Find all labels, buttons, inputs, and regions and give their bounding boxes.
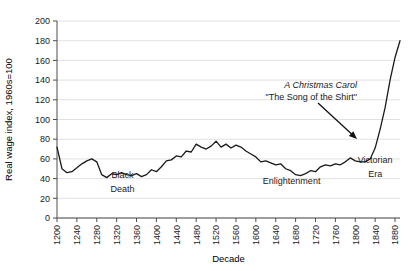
plot-annotations-group: BlackDeathEnlightenmentVictorianEra: [111, 155, 393, 194]
y-tick-label: 40: [40, 174, 50, 184]
x-axis-title: Decade: [212, 253, 245, 264]
enlightenment-label: Enlightenment: [263, 176, 321, 186]
x-tick-label: 1480: [192, 225, 202, 245]
y-tick-label: 0: [45, 213, 50, 223]
x-tick-label: 1840: [371, 225, 381, 245]
christmas-carol-annotation-line-2: "The Song of the Shirt": [266, 92, 357, 102]
y-tick-label: 140: [35, 75, 50, 85]
callout-annotation-group: A Christmas Carol"The Song of the Shirt": [266, 80, 358, 139]
x-tick-label: 1800: [351, 225, 361, 245]
christmas-carol-annotation-line-1: A Christmas Carol: [283, 80, 358, 90]
gridlines-group: [57, 21, 400, 218]
victorian-era-label: Victorian: [358, 155, 393, 165]
y-tick-label: 200: [35, 16, 50, 26]
y-tick-label: 100: [35, 115, 50, 125]
x-tick-label: 1360: [132, 225, 142, 245]
x-tick-label: 1400: [152, 225, 162, 245]
data-series-line: [57, 41, 400, 178]
y-tick-label: 80: [40, 134, 50, 144]
x-tick-label: 1760: [331, 225, 341, 245]
y-tick-label: 20: [40, 194, 50, 204]
y-axis-title: Real wage index, 1960s=100: [3, 58, 14, 181]
x-tick-label: 1600: [251, 225, 261, 245]
x-tick-label: 1560: [231, 225, 241, 245]
x-axis-ticks-group: 1200124012801320136014001440148015201560…: [52, 218, 400, 245]
x-tick-label: 1320: [112, 225, 122, 245]
y-tick-label: 120: [35, 95, 50, 105]
x-tick-label: 1680: [291, 225, 301, 245]
x-tick-label: 1640: [271, 225, 281, 245]
x-tick-label: 1880: [390, 225, 400, 245]
x-tick-label: 1520: [211, 225, 221, 245]
x-tick-label: 1280: [92, 225, 102, 245]
y-axis-ticks-group: 020406080100120140160180200: [35, 16, 57, 223]
real-wage-index-line-chart: 020406080100120140160180200 120012401280…: [0, 0, 417, 271]
x-tick-label: 1440: [172, 225, 182, 245]
y-tick-label: 160: [35, 56, 50, 66]
black-death-label: Death: [111, 184, 135, 194]
y-tick-label: 180: [35, 36, 50, 46]
victorian-era-label: Era: [368, 169, 382, 179]
x-tick-label: 1200: [52, 225, 62, 245]
x-tick-label: 1240: [72, 225, 82, 245]
y-tick-label: 60: [40, 154, 50, 164]
x-tick-label: 1720: [311, 225, 321, 245]
black-death-label: Black: [112, 170, 135, 180]
chart-container: 020406080100120140160180200 120012401280…: [0, 0, 417, 271]
